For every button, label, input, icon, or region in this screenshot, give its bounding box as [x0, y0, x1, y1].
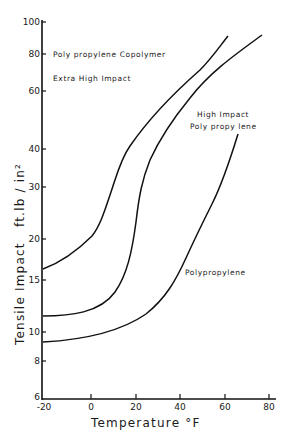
curve-polypropylene [43, 134, 238, 342]
y-tick-80: 80 [29, 49, 41, 59]
y-tick-60: 60 [29, 86, 41, 96]
x-axis-title: Temperature °F [90, 416, 201, 430]
x-tick-40: 40 [174, 402, 186, 412]
impact-vs-temperature-chart: 100 80 60 40 30 20 15 10 8 6 -20 0 20 40… [0, 0, 291, 440]
y-tick-30: 30 [29, 182, 41, 192]
y-tick-20: 20 [29, 234, 41, 244]
y-axis-title: Tensile Impact ft.lb / in² [13, 163, 27, 346]
x-tick-neg20: -20 [37, 402, 52, 412]
x-tick-labels: -20 0 20 40 60 80 [37, 402, 275, 412]
label-copolymer-line2: Extra High Impact [53, 74, 131, 83]
x-tick-20: 20 [130, 402, 142, 412]
label-polypropylene: Polypropylene [185, 268, 246, 277]
label-hipp-line1: High Impact [197, 110, 249, 119]
y-tick-8: 8 [34, 356, 40, 366]
label-copolymer-line1: Poly propylene Copolymer [53, 50, 166, 59]
x-tick-60: 60 [219, 402, 231, 412]
y-axis-title-main: Tensile Impact [13, 242, 27, 346]
x-tick-80: 80 [263, 402, 275, 412]
y-tick-15: 15 [29, 275, 40, 285]
x-tick-0: 0 [88, 402, 94, 412]
y-axis-title-units: ft.lb / in² [13, 163, 27, 227]
label-hipp-line2: Poly propy lene [190, 122, 257, 131]
curve-copolymer-extra-high-impact [43, 36, 228, 269]
y-tick-100: 100 [23, 17, 40, 27]
y-tick-40: 40 [29, 144, 41, 154]
y-tick-10: 10 [29, 327, 41, 337]
y-tick-6: 6 [34, 392, 40, 402]
